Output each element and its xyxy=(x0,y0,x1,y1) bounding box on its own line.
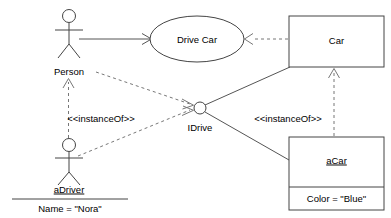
actor-person-label: Person xyxy=(54,66,84,77)
object-box-acar-attribute: Color = "Blue" xyxy=(307,193,366,204)
actor-instance-adriver[interactable]: aDriver Name = "Nora" xyxy=(12,139,128,214)
edge-adriver-to-idrive-arrowhead xyxy=(182,106,194,116)
actor-instance-adriver-attribute: Name = "Nora" xyxy=(38,203,102,214)
interface-idrive-ball-icon xyxy=(194,102,206,114)
edge-person-to-idrive xyxy=(96,72,194,109)
edge-car-to-drive-car-arrowhead xyxy=(245,34,254,45)
class-box-car[interactable]: Car xyxy=(289,16,384,67)
edge-person-to-idrive-line xyxy=(96,72,190,104)
uml-diagram: Person Drive Car Car IDrive aDriver Name… xyxy=(0,0,391,218)
actor-instance-adriver-label: aDriver xyxy=(54,184,85,195)
actor-person-leg-right xyxy=(69,44,80,58)
class-box-car-label: Car xyxy=(329,35,344,46)
actor-person-head-icon xyxy=(63,10,76,23)
edge-person-to-drive-car xyxy=(79,34,152,45)
interface-idrive[interactable]: IDrive xyxy=(188,102,213,133)
edge-adriver-to-person xyxy=(63,79,74,139)
actor-person[interactable]: Person xyxy=(54,10,84,77)
object-box-acar[interactable]: aCar Color = "Blue" xyxy=(289,137,384,210)
usecase-drive-car-label: Drive Car xyxy=(177,34,217,45)
edge-acar-to-car xyxy=(329,69,340,137)
diagram-canvas: Person Drive Car Car IDrive aDriver Name… xyxy=(0,0,391,218)
interface-idrive-label: IDrive xyxy=(188,122,213,133)
object-box-acar-label: aCar xyxy=(326,155,347,166)
edge-idrive-to-car-line xyxy=(205,67,290,105)
edge-label-instanceof-right: <<instanceOf>> xyxy=(254,113,322,124)
actor-instance-adriver-head-icon xyxy=(63,139,76,152)
edge-car-to-drive-car xyxy=(245,34,289,45)
actor-person-leg-left xyxy=(58,44,69,58)
edge-label-instanceof-left: <<instanceOf>> xyxy=(67,113,135,124)
usecase-drive-car[interactable]: Drive Car xyxy=(150,16,244,62)
